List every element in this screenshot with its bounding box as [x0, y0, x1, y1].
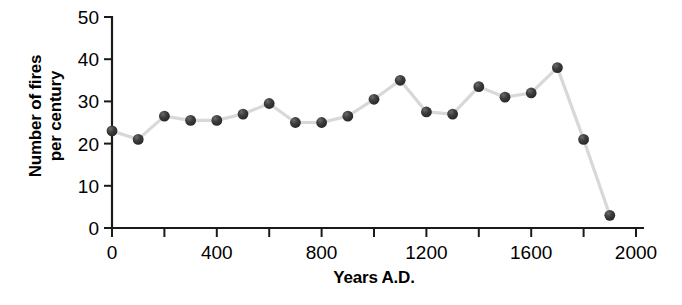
- data-point: [473, 81, 484, 92]
- data-point: [578, 134, 589, 145]
- y-tick-label: 30: [78, 91, 99, 112]
- data-point: [447, 109, 458, 120]
- data-point: [342, 111, 353, 122]
- chart-figure: Number of fires per century Years A.D. 0…: [0, 0, 682, 305]
- x-tick-label: 1600: [510, 242, 552, 263]
- data-point: [185, 115, 196, 126]
- tick-marks: [104, 17, 636, 237]
- y-tick-label: 50: [78, 7, 99, 28]
- x-tick-label: 1200: [405, 242, 447, 263]
- data-point: [552, 62, 563, 73]
- y-tick-label: 0: [88, 218, 99, 239]
- data-point: [316, 117, 327, 128]
- tick-labels: 010203040500400800120016002000: [78, 7, 657, 263]
- x-tick-label: 2000: [615, 242, 657, 263]
- x-tick-label: 400: [201, 242, 233, 263]
- data-point: [500, 92, 511, 103]
- data-point: [369, 94, 380, 105]
- data-point: [604, 210, 615, 221]
- plot-area: 010203040500400800120016002000: [0, 0, 682, 305]
- data-point: [133, 134, 144, 145]
- data-point: [264, 98, 275, 109]
- data-point: [211, 115, 222, 126]
- x-tick-label: 0: [107, 242, 118, 263]
- y-tick-label: 40: [78, 49, 99, 70]
- data-point: [395, 75, 406, 86]
- y-tick-label: 20: [78, 134, 99, 155]
- data-point: [526, 88, 537, 99]
- data-point: [290, 117, 301, 128]
- data-point: [238, 109, 249, 120]
- data-point: [107, 126, 118, 137]
- y-tick-label: 10: [78, 176, 99, 197]
- x-tick-label: 800: [306, 242, 338, 263]
- data-point: [421, 107, 432, 118]
- data-point: [159, 111, 170, 122]
